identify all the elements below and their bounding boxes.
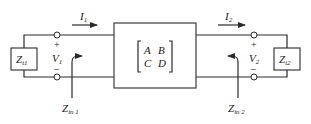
two-port-network-box: A B C D: [114, 23, 196, 88]
port1-bottom-terminal: [54, 74, 60, 80]
network-box: [114, 23, 196, 88]
matrix-element-c: C: [144, 57, 152, 69]
port1-plus-sign: +: [54, 39, 60, 50]
port2-top-terminal: [251, 32, 257, 38]
load-bottom-wire: [257, 70, 287, 77]
source-bottom-wire: [24, 70, 54, 77]
port2-bottom-terminal: [251, 74, 257, 80]
port2-minus-sign: –: [250, 63, 257, 74]
port1-top-terminal: [54, 32, 60, 38]
port2-plus-sign: +: [251, 39, 257, 50]
input-impedance-1-label: Zin 1: [62, 102, 79, 116]
matrix-element-a: A: [143, 44, 151, 56]
two-port-network-diagram: Zt1 + V1 – I1 Zin 1 A B C D + V2 – I2 Zi…: [0, 0, 311, 124]
port2-current-label: I2: [224, 10, 233, 24]
input-impedance-2-label: Zin 2: [228, 102, 245, 116]
matrix-element-b: B: [158, 44, 165, 56]
load-impedance: Zt2: [257, 35, 300, 77]
port1-current-label: I1: [79, 10, 87, 24]
source-top-wire: [24, 35, 54, 48]
matrix-element-d: D: [157, 57, 166, 69]
load-top-wire: [257, 35, 287, 48]
source-impedance: Zt1: [11, 35, 54, 77]
port1-minus-sign: –: [53, 63, 60, 74]
